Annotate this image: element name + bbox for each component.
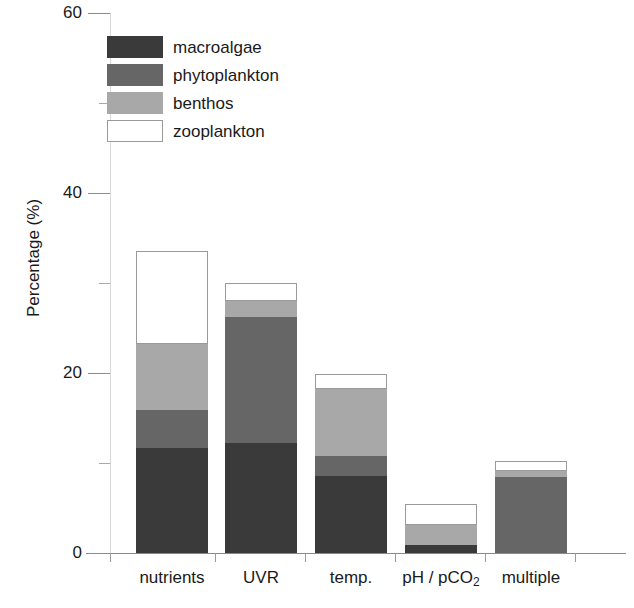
bar-uvr[interactable] [225,283,297,553]
bar-multiple[interactable] [495,461,567,553]
bar-segment-macroalgae[interactable] [225,443,297,553]
bar-segment-phytoplankton[interactable] [495,477,567,553]
bar-segment-benthos[interactable] [405,525,477,545]
bar-segment-phytoplankton[interactable] [225,317,297,443]
x-axis-tick [215,553,216,562]
bar-temp-[interactable] [315,374,387,553]
bar-segment-benthos[interactable] [225,301,297,317]
bar-segment-zooplankton[interactable] [225,283,297,301]
x-axis-tick [395,553,396,562]
x-axis-tick [575,553,576,562]
bar-segment-macroalgae[interactable] [405,545,477,553]
legend: macroalgaephytoplanktonbenthoszooplankto… [107,34,279,146]
legend-item-label: zooplankton [173,122,265,141]
bar-ph-pco2[interactable] [405,504,477,553]
legend-item-phytoplankton[interactable]: phytoplankton [107,62,279,88]
bar-segment-zooplankton[interactable] [315,374,387,389]
legend-item-macroalgae[interactable]: macroalgae [107,34,279,60]
bar-segment-zooplankton[interactable] [495,461,567,471]
bar-segment-zooplankton[interactable] [405,504,477,526]
legend-item-label: benthos [173,94,234,113]
bar-nutrients[interactable] [136,251,208,553]
x-axis-tick [485,553,486,562]
bar-segment-macroalgae[interactable] [136,448,208,553]
white-swatch [107,120,163,142]
bar-segment-phytoplankton[interactable] [315,456,387,476]
x-axis-tick [110,553,111,562]
dark-gray-swatch [107,36,163,58]
x-axis-tick [305,553,306,562]
legend-item-label: macroalgae [173,38,262,57]
bar-segment-benthos[interactable] [136,344,208,410]
plot-area [0,0,634,608]
light-gray-swatch [107,92,163,114]
x-axis-label-multiple: multiple [471,568,591,588]
legend-item-zooplankton[interactable]: zooplankton [107,118,279,144]
medium-gray-swatch [107,64,163,86]
bar-segment-macroalgae[interactable] [315,476,387,553]
stacked-bar-chart: Percentage (%) 0204060 nutrientsUVRtemp.… [0,0,634,608]
bar-segment-phytoplankton[interactable] [136,410,208,448]
legend-item-benthos[interactable]: benthos [107,90,279,116]
legend-item-label: phytoplankton [173,66,279,85]
bar-segment-benthos[interactable] [315,389,387,456]
bar-segment-zooplankton[interactable] [136,251,208,345]
